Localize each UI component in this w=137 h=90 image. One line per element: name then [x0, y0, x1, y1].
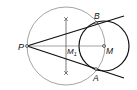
point-p-marker	[26, 45, 29, 48]
point-a-marker	[95, 68, 98, 71]
label-m1: M1	[67, 47, 77, 57]
label-b: B	[94, 11, 100, 21]
point-b-marker	[95, 22, 98, 25]
point-m-marker	[103, 45, 106, 48]
label-p: P	[18, 42, 24, 52]
label-a: A	[92, 73, 99, 83]
tangent-line-b	[27, 16, 124, 46]
label-m: M	[106, 46, 114, 56]
tangent-construction-diagram: P M B A M1	[0, 0, 137, 90]
